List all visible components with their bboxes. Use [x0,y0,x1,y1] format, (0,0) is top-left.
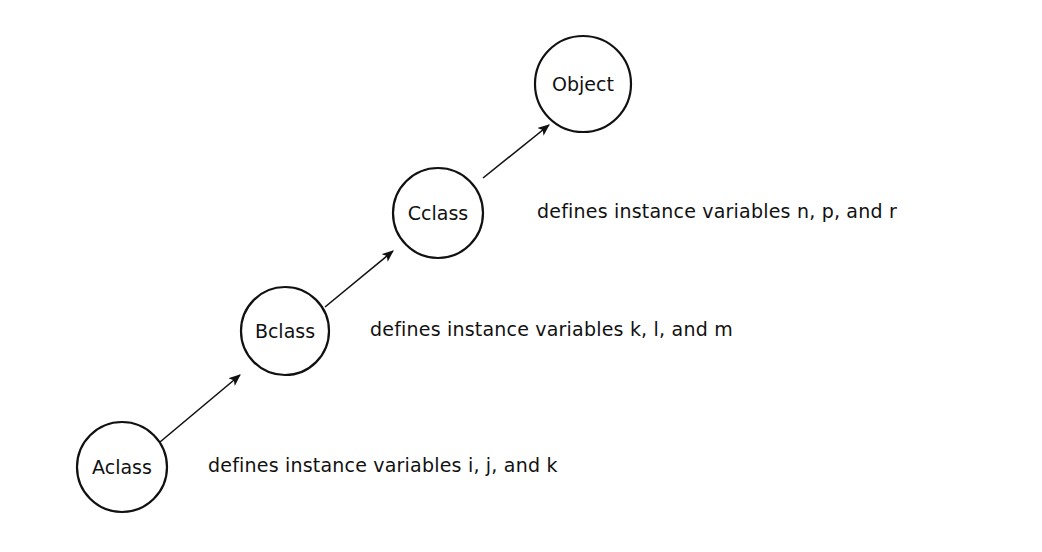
node-cclass: Cclass [393,168,483,258]
note-aclass: defines instance variables i, j, and k [208,454,558,476]
inherits-arrow-bclass-cclass [325,251,393,307]
inherits-arrow-cclass-object [483,125,549,178]
node-object: Object [535,36,631,132]
node-bclass: Bclass [241,287,329,375]
inherits-arrow-aclass-bclass [160,375,240,442]
note-bclass: defines instance variables k, l, and m [370,318,733,340]
note-cclass: defines instance variables n, p, and r [537,200,897,222]
node-aclass: Aclass [77,422,167,512]
node-label-object: Object [552,73,614,95]
node-label-bclass: Bclass [255,320,315,342]
node-label-aclass: Aclass [92,456,152,478]
node-label-cclass: Cclass [408,202,468,224]
